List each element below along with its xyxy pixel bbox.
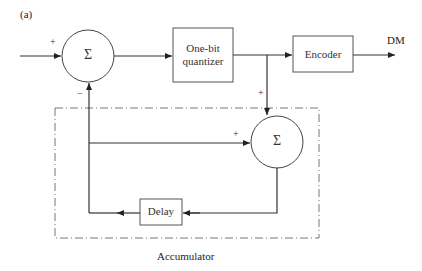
quantizer-label-line2: quantizer <box>173 55 233 68</box>
summer-accumulator-symbol: Σ <box>269 133 285 149</box>
accumulator-label: Accumulator <box>157 250 214 263</box>
encoder-label: Encoder <box>293 48 353 61</box>
panel-label: (a) <box>20 8 32 21</box>
accumulator-boundary <box>55 108 319 238</box>
summer-main-plus-sign: + <box>50 36 56 47</box>
block-diagram-canvas <box>0 0 422 271</box>
accumulator-plus-left-sign: + <box>233 128 239 139</box>
output-label: DM <box>387 34 405 47</box>
quantizer-label-line1: One-bit <box>173 42 233 55</box>
summer-main-symbol: Σ <box>80 47 96 63</box>
quantizer-label: One-bit quantizer <box>173 42 233 68</box>
summer-to-delay-path <box>190 168 277 213</box>
accumulator-plus-top-sign: + <box>258 87 264 98</box>
delay-label: Delay <box>140 205 182 218</box>
summer-main-minus-sign: − <box>77 88 83 99</box>
